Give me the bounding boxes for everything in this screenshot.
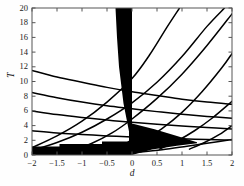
y-tick-label: 2 (2, 135, 28, 145)
x-tick-label: 2 (217, 158, 244, 168)
y-tick-label: 18 (2, 17, 28, 27)
y-tick-label: 20 (2, 3, 28, 13)
y-tick-label: 16 (2, 32, 28, 42)
y-tick-label: 6 (2, 105, 28, 115)
y-axis-label: T (6, 61, 16, 89)
x-axis-label: d (112, 168, 152, 178)
y-tick-label: 8 (2, 91, 28, 101)
y-tick-label: 14 (2, 47, 28, 57)
figure: 02468101214161820 −2−1.5−1−0.500.511.52 … (0, 0, 244, 186)
y-tick-label: 4 (2, 120, 28, 130)
